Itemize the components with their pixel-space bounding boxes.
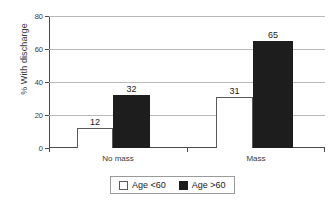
y-tick-label-60: 60 — [35, 45, 43, 54]
y-tick-label-80: 80 — [35, 12, 43, 21]
chart-legend: Age <60 Age >60 — [110, 176, 235, 194]
plot-area: 80 60 40 20 0 No mass Mass 12 32 31 65 — [49, 16, 325, 148]
bar-value-no-mass-age-over-60: 32 — [126, 84, 136, 94]
legend-label-age-over-60: Age >60 — [192, 180, 226, 190]
y-tick-label-40: 40 — [35, 78, 43, 87]
legend-label-age-under-60: Age <60 — [132, 180, 166, 190]
y-tick-mark-60 — [45, 49, 49, 50]
y-tick-label-20: 20 — [35, 111, 43, 120]
light-square-icon — [119, 181, 128, 190]
bar-no-mass-age-under-60: 12 — [77, 128, 113, 148]
bar-no-mass-age-over-60: 32 — [113, 95, 150, 148]
x-tick-mark-left — [49, 148, 50, 152]
y-axis-title: % With discharge — [19, 0, 29, 129]
bar-value-mass-age-under-60: 31 — [229, 86, 239, 96]
gridline-80 — [49, 16, 325, 17]
x-tick-label-mass: Mass — [246, 154, 265, 163]
bar-mass-age-under-60: 31 — [216, 97, 253, 148]
bar-chart-figure: % With discharge 80 60 40 20 0 No mass M… — [0, 0, 336, 204]
x-tick-label-no-mass: No mass — [102, 154, 134, 163]
y-tick-mark-80 — [45, 16, 49, 17]
x-tick-mark-right — [324, 148, 325, 152]
bar-mass-age-over-60: 65 — [253, 41, 293, 148]
y-tick-mark-20 — [45, 115, 49, 116]
y-tick-label-0: 0 — [39, 144, 43, 153]
legend-item-age-over-60: Age >60 — [179, 180, 226, 190]
x-tick-mark-mid — [187, 148, 188, 152]
bar-value-no-mass-age-under-60: 12 — [90, 117, 100, 127]
y-tick-mark-40 — [45, 82, 49, 83]
dark-square-icon — [179, 181, 188, 190]
legend-item-age-under-60: Age <60 — [119, 180, 166, 190]
bar-value-mass-age-over-60: 65 — [268, 30, 278, 40]
